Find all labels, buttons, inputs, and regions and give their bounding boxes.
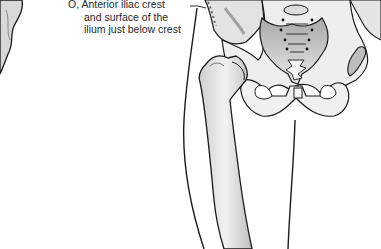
ilium bbox=[205, 0, 264, 44]
left-ilium-fragment bbox=[0, 0, 22, 74]
annotation-line-1: O, Anterior iliac crest bbox=[68, 0, 181, 11]
pelvis-illustration bbox=[0, 0, 381, 249]
anatomy-annotation: O, Anterior iliac crest and surface of t… bbox=[68, 0, 181, 36]
thigh-outline-left bbox=[184, 8, 204, 249]
annotation-line-2: and surface of the bbox=[68, 11, 181, 24]
annotation-leader-line bbox=[190, 6, 206, 8]
annotation-line-3: ilium just below crest bbox=[68, 23, 181, 36]
thigh-outline-right bbox=[288, 120, 295, 249]
